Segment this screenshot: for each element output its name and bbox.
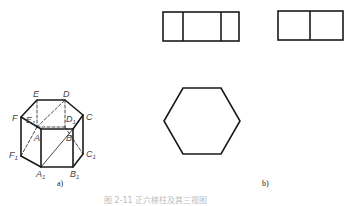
label-E: E: [33, 89, 40, 99]
subfigure-label-a: a): [57, 179, 64, 188]
label-B1: B1: [70, 169, 79, 180]
top-view-hexagon: [164, 88, 240, 154]
label-A1: A1: [35, 169, 45, 180]
subfigure-label-b: b): [262, 179, 269, 188]
figure-caption: 图 2-11 正六棱柱及其三视图: [104, 195, 207, 205]
hexagonal-prism-figure: E D F C A B E1 D1 F1 A1 B1 C1 a) b) 图 2-…: [0, 0, 353, 206]
label-B: B: [66, 133, 72, 143]
label-C1: C1: [86, 149, 96, 160]
label-A: A: [33, 133, 40, 143]
prism-isometric: [21, 100, 83, 167]
orthographic-views: [163, 11, 343, 154]
label-D: D: [63, 89, 70, 99]
side-view: [278, 11, 343, 40]
label-D1: D1: [66, 114, 76, 125]
label-F: F: [12, 113, 18, 123]
label-C: C: [86, 112, 93, 122]
label-F1: F1: [9, 150, 18, 161]
label-E1: E1: [26, 115, 35, 126]
front-view: [163, 12, 239, 41]
